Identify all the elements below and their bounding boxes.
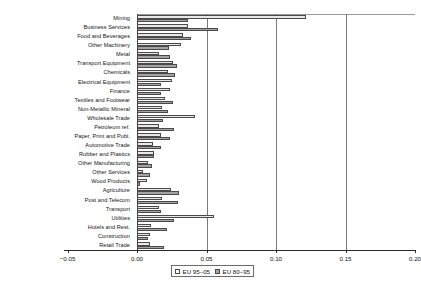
- bar-row: [137, 96, 415, 105]
- bar-row: [137, 41, 415, 50]
- x-tick-label-0.15: 0.15: [339, 255, 351, 262]
- bar-eu-80-95[interactable]: [137, 46, 169, 49]
- legend-item[interactable]: EU 95–05: [175, 268, 210, 275]
- bar-row: [137, 214, 415, 223]
- bar-eu-80-95[interactable]: [137, 210, 161, 213]
- bar-row: [137, 68, 415, 77]
- y-axis-label-paper-print-and-publ: Paper, Print and Publ.: [0, 132, 130, 141]
- plot-area: [137, 14, 415, 250]
- y-axis-label-utilities: Utilities: [0, 214, 130, 223]
- bar-eu-80-95[interactable]: [137, 146, 161, 149]
- bar-row: [137, 114, 415, 123]
- bar-eu-80-95[interactable]: [137, 101, 173, 104]
- legend-label: EU 80–95: [223, 268, 251, 275]
- bar-row: [137, 186, 415, 195]
- bar-eu-80-95[interactable]: [137, 164, 152, 167]
- y-axis-label-finance: Finance: [0, 87, 130, 96]
- bar-row: [137, 23, 415, 32]
- x-tick-0.05: [207, 250, 208, 253]
- y-axis-label-electrical-equipment: Electrical Equipment: [0, 78, 130, 87]
- y-axis-label-rubber-and-plastics: Rubber and Plastics: [0, 150, 130, 159]
- bar-eu-80-95[interactable]: [137, 182, 140, 185]
- bar-row: [137, 141, 415, 150]
- bar-eu-80-95[interactable]: [137, 73, 175, 76]
- y-axis-label-other-machinery: Other Machinery: [0, 41, 130, 50]
- bar-eu-80-95[interactable]: [137, 228, 167, 231]
- legend-swatch-icon: [175, 269, 180, 274]
- bar-row: [137, 159, 415, 168]
- x-tick-label-0.2: 0.20: [409, 255, 421, 262]
- bar-eu-80-95[interactable]: [137, 83, 161, 86]
- y-axis-label-food-and-beverages: Food and Beverages: [0, 32, 130, 41]
- bar-row: [137, 150, 415, 159]
- y-axis-label-wholesale-trade: Wholesale Trade: [0, 114, 130, 123]
- bar-eu-80-95[interactable]: [137, 137, 170, 140]
- y-axis-label-business-services: Business Services: [0, 23, 130, 32]
- legend-label: EU 95–05: [183, 268, 211, 275]
- bar-row: [137, 123, 415, 132]
- y-axis-label-transport-equipment: Transport Equipment: [0, 59, 130, 68]
- x-tick-label-0: 0.00: [131, 255, 143, 262]
- bar-row: [137, 87, 415, 96]
- bar-row: [137, 59, 415, 68]
- bar-eu-80-95[interactable]: [137, 55, 170, 58]
- x-tick-0.1: [276, 250, 277, 253]
- bar-eu-80-95[interactable]: [137, 119, 163, 122]
- bar-eu-80-95[interactable]: [137, 128, 174, 131]
- y-axis-category-labels: MiningBusiness ServicesFood and Beverage…: [0, 14, 134, 250]
- bar-eu-80-95[interactable]: [137, 219, 174, 222]
- bar-eu-80-95[interactable]: [137, 155, 154, 158]
- legend-swatch-icon: [215, 269, 220, 274]
- bar-row: [137, 241, 415, 250]
- y-axis-label-construction: Construction: [0, 232, 130, 241]
- bar-eu-80-95[interactable]: [137, 173, 150, 176]
- bar-row: [137, 78, 415, 87]
- y-axis-label-agriculture: Agriculture: [0, 186, 130, 195]
- y-axis-label-hotels-and-rest: Hotels and Rest.: [0, 223, 130, 232]
- bar-row: [137, 196, 415, 205]
- x-tick-0.15: [346, 250, 347, 253]
- bar-row: [137, 223, 415, 232]
- bar-row: [137, 177, 415, 186]
- bar-eu-80-95[interactable]: [137, 110, 168, 113]
- bar-row: [137, 232, 415, 241]
- y-axis-label-other-services: Other Services: [0, 168, 130, 177]
- chart-legend[interactable]: EU 95–05EU 80–95: [171, 265, 254, 277]
- bar-row: [137, 32, 415, 41]
- bar-eu-80-95[interactable]: [137, 201, 178, 204]
- bar-eu-80-95[interactable]: [137, 19, 188, 22]
- bar-eu-80-95[interactable]: [137, 64, 177, 67]
- bar-eu-80-95[interactable]: [137, 37, 191, 40]
- x-tick-label-0.05: 0.05: [200, 255, 212, 262]
- bar-eu-80-95[interactable]: [137, 92, 161, 95]
- legend-item[interactable]: EU 80–95: [215, 268, 250, 275]
- y-axis-label-post-and-telecom: Post and Telecom: [0, 196, 130, 205]
- bar-row: [137, 205, 415, 214]
- bar-row: [137, 168, 415, 177]
- x-tick-0.2: [415, 250, 416, 253]
- y-axis-label-wood-products: Wood Products: [0, 177, 130, 186]
- bar-eu-80-95[interactable]: [137, 246, 164, 249]
- y-axis-label-petroleum-ref: Petroleum ref.: [0, 123, 130, 132]
- y-axis-label-transport: Transport: [0, 205, 130, 214]
- y-axis-label-metal: Metal: [0, 50, 130, 59]
- x-tick--0.05: [68, 250, 69, 253]
- y-axis-label-retail-trade: Retail Trade: [0, 241, 130, 250]
- x-tick-0: [137, 250, 138, 253]
- x-tick-label-0.1: 0.10: [270, 255, 282, 262]
- y-axis-label-other-manufacturing: Other Manufacturing: [0, 159, 130, 168]
- y-axis-label-mining: Mining: [0, 14, 130, 23]
- bar-eu-80-95[interactable]: [137, 191, 179, 194]
- x-axis-line: [64, 250, 415, 251]
- y-axis-label-textiles-and-footwear: Textiles and Footwear: [0, 96, 130, 105]
- y-axis-label-automotive-trade: Automotive Trade: [0, 141, 130, 150]
- x-tick-label--0.05: −0.05: [60, 255, 76, 262]
- bar-eu-80-95[interactable]: [137, 237, 148, 240]
- bar-row: [137, 105, 415, 114]
- bar-row: [137, 14, 415, 23]
- bar-row: [137, 50, 415, 59]
- bar-eu-80-95[interactable]: [137, 28, 218, 31]
- y-axis-label-chemicals: Chemicals: [0, 68, 130, 77]
- bar-row: [137, 132, 415, 141]
